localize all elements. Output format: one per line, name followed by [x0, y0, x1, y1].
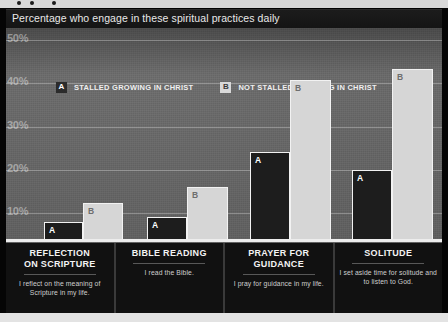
y-tick-label: 40% [7, 75, 28, 87]
y-tick-label: 30% [7, 119, 28, 131]
category-title-line1: BIBLE READING [132, 248, 207, 259]
category-divider [243, 274, 315, 275]
axis-baseline [6, 239, 442, 242]
bar-a-group-3[interactable]: A [250, 152, 290, 240]
bar-letter: B [295, 84, 301, 93]
category-divider [133, 263, 205, 264]
category-cell-4: SOLITUDEI set aside time for solitude an… [334, 243, 443, 313]
y-tick-label: 20% [7, 162, 28, 174]
chart-screenshot: Percentage who engage in these spiritual… [0, 0, 448, 322]
bar-letter: B [192, 191, 198, 200]
category-title-line1: SOLITUDE [364, 248, 412, 259]
legend-label-a: STALLED GROWING IN CHRIST [74, 83, 193, 92]
top-dot-1 [17, 1, 21, 5]
bar-b-group-1[interactable]: B [83, 203, 123, 240]
top-dot-3 [52, 1, 56, 5]
bar-a-group-1[interactable]: A [44, 222, 83, 240]
category-divider [24, 274, 96, 275]
bar-a-group-2[interactable]: A [147, 217, 187, 240]
category-title-line2: GUIDANCE [248, 259, 309, 270]
category-title: BIBLE READING [132, 248, 207, 259]
chart-title: Percentage who engage in these spiritual… [12, 12, 280, 24]
gridline-2 [6, 127, 442, 128]
bar-letter: B [88, 207, 94, 216]
legend-key-b: B [220, 82, 231, 93]
category-title: SOLITUDE [364, 248, 412, 259]
bar-b-group-4[interactable]: B [392, 69, 433, 240]
y-tick-label: 50% [7, 32, 28, 44]
category-cell-3: PRAYER FORGUIDANCEI pray for guidance in… [224, 243, 334, 313]
bar-letter: A [357, 174, 363, 183]
bar-b-group-3[interactable]: B [290, 80, 331, 240]
bar-letter: A [152, 221, 158, 230]
bar-a-group-4[interactable]: A [352, 170, 392, 240]
category-description: I read the Bible. [145, 268, 194, 277]
bar-letter: A [49, 226, 55, 235]
category-title-line1: REFLECTION [24, 248, 96, 259]
top-dot-2 [30, 1, 34, 5]
category-title: PRAYER FORGUIDANCE [248, 248, 309, 270]
category-title-line2: ON SCRIPTURE [24, 259, 96, 270]
bar-letter: B [397, 73, 403, 82]
bar-letter: A [255, 156, 261, 165]
window-top-strip [0, 0, 448, 8]
category-divider [352, 263, 424, 264]
bar-b-group-2[interactable]: B [187, 187, 228, 240]
gridline-0 [6, 40, 442, 41]
category-description: I reflect on the meaning of Scripture in… [10, 279, 110, 297]
y-tick-label: 10% [7, 205, 28, 217]
category-cell-2: BIBLE READINGI read the Bible. [115, 243, 225, 313]
plot-area: 50%40%30%20%10% A STALLED GROWING IN CHR… [6, 28, 442, 243]
window-bottom-strip [0, 313, 448, 322]
category-label-strip: REFLECTIONON SCRIPTUREI reflect on the m… [6, 243, 442, 313]
legend-key-a: A [56, 82, 67, 93]
category-cell-1: REFLECTIONON SCRIPTUREI reflect on the m… [6, 243, 115, 313]
category-description: I set aside time for solitude and to lis… [339, 268, 439, 286]
category-description: I pray for guidance in my life. [234, 279, 324, 288]
category-title-line1: PRAYER FOR [248, 248, 309, 259]
category-title: REFLECTIONON SCRIPTURE [24, 248, 96, 270]
